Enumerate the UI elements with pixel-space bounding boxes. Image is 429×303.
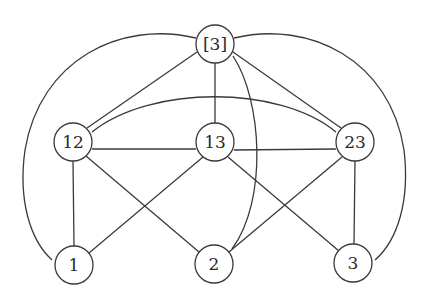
node-1: 1	[55, 246, 93, 284]
edge-[3]-1-curve	[23, 34, 196, 260]
edge-13-23	[234, 149, 336, 150]
node-12: 12	[54, 123, 92, 161]
edge-23-2	[229, 157, 342, 252]
node-label: [3]	[203, 34, 227, 54]
node-label: 2	[209, 254, 220, 274]
node-label: 1	[69, 255, 80, 275]
node-23: 23	[336, 123, 374, 161]
edge-13-1	[89, 157, 203, 253]
node-[3]: [3]	[196, 25, 234, 63]
nodes: [3] 12 13 23 1 2 3	[54, 25, 374, 284]
edge-12-1	[73, 161, 74, 246]
edge-23-3	[354, 161, 355, 244]
edge-12-2	[86, 156, 199, 252]
graph-diagram: [3] 12 13 23 1 2 3	[0, 0, 429, 303]
edge-[3]-12	[87, 52, 197, 128]
edge-[3]-2-curve	[232, 56, 257, 249]
node-3: 3	[334, 244, 372, 282]
node-2: 2	[195, 245, 233, 283]
edge-13-3	[228, 157, 339, 251]
node-label: 3	[348, 253, 359, 273]
node-label: 13	[204, 132, 226, 152]
node-label: 23	[344, 132, 366, 152]
node-13: 13	[196, 123, 234, 161]
edge-[3]-23	[233, 52, 341, 128]
node-label: 12	[62, 132, 84, 152]
